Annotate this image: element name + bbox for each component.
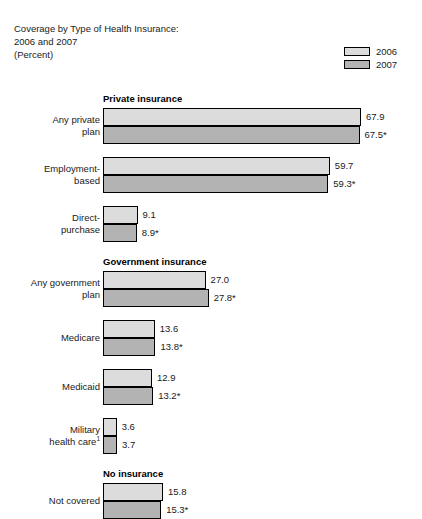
category-label: Direct- purchase [61, 212, 100, 236]
bar-2007 [103, 338, 155, 356]
bar-category-group: Not covered15.815.3* [0, 483, 422, 519]
bar-2007 [103, 387, 153, 405]
category-label: Medicare [61, 332, 100, 344]
bar-value-label: 3.6 [122, 418, 135, 436]
bar-2007 [103, 175, 328, 193]
bar-value-label: 67.9 [366, 108, 385, 126]
bar-row: 8.9* [103, 224, 422, 242]
bar-value-label: 12.9 [157, 369, 176, 387]
bar-2006 [103, 206, 138, 224]
bar-category-group: Employment- based59.759.3* [0, 157, 422, 193]
bar-category-group: Militaryhealth care13.63.7 [0, 418, 422, 454]
bar-category-group: Medicare13.613.8* [0, 320, 422, 356]
bar-row: 13.2* [103, 387, 422, 405]
bar-2006 [103, 108, 361, 126]
bar-2006 [103, 320, 155, 338]
bar-category-group: Any private plan67.967.5* [0, 108, 422, 144]
bar-row: 15.8 [103, 483, 422, 501]
category-label: Medicaid [62, 381, 100, 393]
bar-2006 [103, 483, 163, 501]
bar-category-group: Direct- purchase9.18.9* [0, 206, 422, 242]
category-label: Employment- based [44, 163, 100, 187]
bar-value-label: 13.2* [158, 387, 180, 405]
bar-row: 3.7 [103, 436, 422, 454]
bar-row: 13.6 [103, 320, 422, 338]
bar-row: 12.9 [103, 369, 422, 387]
section-header: Private insurance [103, 93, 182, 104]
bar-2007 [103, 501, 161, 519]
bar-value-label: 15.3* [166, 501, 188, 519]
category-label: Any government plan [31, 277, 100, 301]
bar-value-label: 9.1 [143, 206, 156, 224]
bar-category-group: Medicaid12.913.2* [0, 369, 422, 405]
bar-2007 [103, 289, 209, 307]
bar-2007 [103, 126, 360, 144]
bar-value-label: 27.8* [214, 289, 236, 307]
bar-row: 27.8* [103, 289, 422, 307]
bar-value-label: 27.0 [211, 271, 230, 289]
bar-row: 67.5* [103, 126, 422, 144]
bar-2006 [103, 157, 330, 175]
bar-row: 9.1 [103, 206, 422, 224]
bar-2006 [103, 271, 206, 289]
bar-value-label: 13.6 [160, 320, 179, 338]
bar-value-label: 15.8 [168, 483, 187, 501]
category-label: Militaryhealth care1 [49, 424, 100, 448]
bar-row: 59.3* [103, 175, 422, 193]
section-header: No insurance [103, 468, 163, 479]
bar-value-label: 13.8* [160, 338, 182, 356]
category-label: Any private plan [52, 114, 100, 138]
footnote-marker: 1 [96, 435, 100, 442]
bar-row: 15.3* [103, 501, 422, 519]
bar-value-label: 3.7 [122, 436, 135, 454]
bar-value-label: 59.3* [333, 175, 355, 193]
bar-category-group: Any government plan27.027.8* [0, 271, 422, 307]
section-header: Government insurance [103, 256, 206, 267]
bar-2007 [103, 224, 137, 242]
category-label: Not covered [49, 495, 100, 507]
bar-row: 59.7 [103, 157, 422, 175]
bar-2007 [103, 436, 117, 454]
bar-row: 67.9 [103, 108, 422, 126]
bar-row: 3.6 [103, 418, 422, 436]
bar-2006 [103, 418, 117, 436]
bar-row: 13.8* [103, 338, 422, 356]
bar-2006 [103, 369, 152, 387]
bar-row: 27.0 [103, 271, 422, 289]
bar-value-label: 8.9* [142, 224, 159, 242]
bar-value-label: 67.5* [365, 126, 387, 144]
bar-value-label: 59.7 [335, 157, 354, 175]
